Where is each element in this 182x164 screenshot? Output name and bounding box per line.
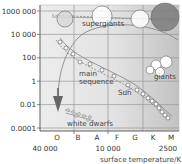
supergiant-star: [151, 3, 179, 31]
main-sequence-star: [141, 92, 145, 96]
giant-star: [146, 66, 154, 74]
x-axis-title: surface temperature/K: [100, 155, 181, 164]
main-sequence-star: [150, 99, 154, 103]
y-tick-label: 1: [31, 77, 36, 86]
white-dwarf-star: [75, 115, 78, 118]
spectral-class-label: B: [76, 133, 81, 142]
region-label-supergiants: supergiants: [82, 19, 124, 28]
spectral-class-label: A: [95, 133, 100, 142]
hr-diagram: 1000 00010 00010010.010.0001OBAFGKM40 00…: [0, 0, 182, 164]
main-sequence-star: [64, 46, 68, 50]
region-label-white-dwarfs: white dwarfs: [67, 119, 113, 128]
main-sequence-star: [154, 102, 158, 106]
y-tick-label: 100: [22, 53, 36, 62]
giant-star: [160, 56, 172, 68]
white-dwarf-star: [72, 111, 75, 114]
spectral-class-label: M: [168, 133, 174, 142]
main-sequence-star: [71, 52, 75, 56]
white-dwarf-star: [83, 115, 86, 118]
y-tick-label: 1000 000: [2, 7, 37, 16]
main-sequence-star: [88, 62, 92, 66]
spectral-class-label: K: [151, 133, 156, 142]
main-sequence-star: [100, 68, 104, 72]
supergiant-star: [57, 11, 73, 27]
white-dwarf-star: [67, 109, 70, 112]
main-sequence-star: [78, 60, 82, 64]
temperature-tick-label: 10 000: [95, 144, 121, 153]
y-tick-label: 10 000: [11, 30, 37, 39]
sun-label: Sun: [118, 88, 132, 97]
main-sequence-star: [58, 40, 62, 44]
main-sequence-star: [126, 83, 130, 87]
main-sequence-star: [157, 106, 161, 110]
y-tick-label: 0.01: [20, 100, 36, 109]
region-label-giants: giants: [154, 72, 176, 81]
temperature-tick-label: 2500: [159, 144, 178, 153]
spectral-class-label: F: [115, 133, 119, 142]
white-dwarf-star: [78, 113, 81, 116]
white-dwarf-star: [89, 116, 92, 119]
region-label-sequence: sequence: [79, 77, 114, 86]
supergiant-star: [131, 10, 149, 28]
main-sequence-star: [166, 116, 170, 120]
spectral-class-label: O: [54, 133, 60, 142]
temperature-tick-label: 40 000: [32, 144, 58, 153]
y-tick-label: 0.0001: [11, 124, 36, 133]
main-sequence-star: [146, 96, 150, 100]
spectral-class-label: G: [132, 133, 138, 142]
main-sequence-star: [135, 88, 139, 92]
